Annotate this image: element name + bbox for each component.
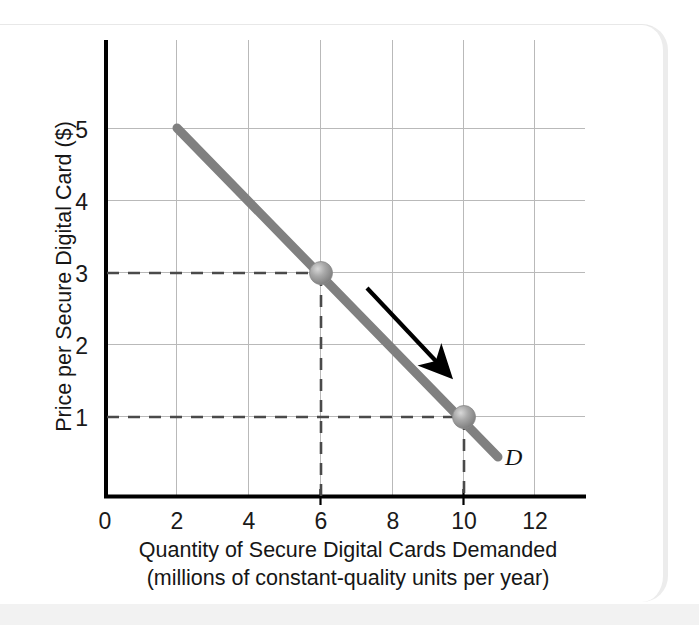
x-axis-title-line2: (millions of constant-quality units per … bbox=[105, 564, 591, 592]
demand-curve-label: D bbox=[505, 444, 522, 471]
x-tick-label-8: 8 bbox=[373, 508, 413, 535]
page-bottom-band bbox=[0, 604, 699, 625]
y-axis-title: Price per Secure Digital Card ($) bbox=[52, 87, 77, 467]
x-tick-label-10: 10 bbox=[444, 508, 484, 535]
x-tick-label-6: 6 bbox=[301, 508, 341, 535]
x-tick-label-2: 2 bbox=[157, 508, 197, 535]
x-axis-title: Quantity of Secure Digital Cards Demande… bbox=[105, 536, 591, 592]
x-axis-title-line1: Quantity of Secure Digital Cards Demande… bbox=[105, 536, 591, 564]
x-tick-label-0: 0 bbox=[85, 508, 125, 535]
x-tick-label-4: 4 bbox=[229, 508, 269, 535]
x-tick-label-12: 12 bbox=[515, 508, 555, 535]
